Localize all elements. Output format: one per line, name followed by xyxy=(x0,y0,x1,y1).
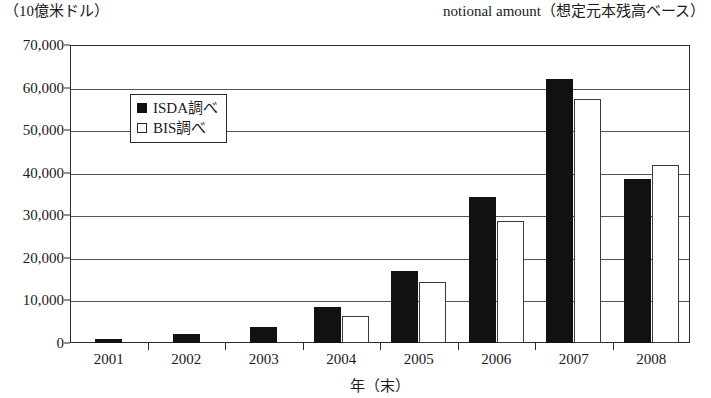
bar-isda-2002 xyxy=(173,334,200,343)
y-tick-label: 60,000 xyxy=(23,79,64,96)
y-tick-label: 10,000 xyxy=(23,292,64,309)
x-tick-mark xyxy=(380,343,381,350)
x-axis-title: 年（末） xyxy=(70,374,690,395)
legend-item-label: BIS調べ xyxy=(153,118,206,138)
bar-bis-2007 xyxy=(574,99,601,343)
bar-group xyxy=(458,45,536,343)
x-axis-ticks xyxy=(70,343,690,350)
legend-item-isda: ISDA調べ xyxy=(137,98,218,118)
x-tick-label: 2003 xyxy=(249,351,279,368)
y-tick-label: 40,000 xyxy=(23,164,64,181)
bar-isda-2003 xyxy=(250,327,277,343)
x-tick-label: 2004 xyxy=(326,351,356,368)
x-tick-mark xyxy=(535,343,536,350)
x-tick-mark xyxy=(458,343,459,350)
x-tick-mark xyxy=(225,343,226,350)
bar-group xyxy=(613,45,691,343)
y-tick-label: 70,000 xyxy=(23,37,64,54)
x-tick-label: 2007 xyxy=(559,351,589,368)
bar-isda-2004 xyxy=(314,307,341,343)
y-axis: 010,00020,00030,00040,00050,00060,00070,… xyxy=(0,45,64,343)
bar-isda-2006 xyxy=(469,197,496,343)
filled-square-icon xyxy=(137,103,147,113)
bar-group xyxy=(380,45,458,343)
y-axis-unit-label: （10億米ドル） xyxy=(4,2,109,20)
bar-bis-2006 xyxy=(497,221,524,343)
y-tick-label: 50,000 xyxy=(23,122,64,139)
x-tick-label: 2002 xyxy=(171,351,201,368)
chart-legend: ISDA調べ BIS調べ xyxy=(130,94,227,143)
bar-group xyxy=(535,45,613,343)
x-tick-label: 2006 xyxy=(481,351,511,368)
bar-group xyxy=(70,45,148,343)
bar-bis-2008 xyxy=(652,165,679,343)
legend-item-bis: BIS調べ xyxy=(137,118,218,138)
x-tick-label: 2001 xyxy=(94,351,124,368)
x-tick-label: 2008 xyxy=(636,351,666,368)
x-tick-mark xyxy=(613,343,614,350)
x-axis: 20012002200320042005200620072008 xyxy=(70,351,690,373)
bars-layer xyxy=(70,45,690,343)
bar-isda-2007 xyxy=(546,79,573,343)
bar-group xyxy=(225,45,303,343)
bar-group xyxy=(303,45,381,343)
bar-bis-2005 xyxy=(419,282,446,343)
y-tick-label: 0 xyxy=(57,335,65,352)
y-tick-label: 20,000 xyxy=(23,249,64,266)
x-tick-mark xyxy=(303,343,304,350)
bar-group xyxy=(148,45,226,343)
bar-isda-2008 xyxy=(624,179,651,343)
legend-item-label: ISDA調べ xyxy=(153,98,218,118)
bar-isda-2005 xyxy=(391,271,418,343)
y-tick-label: 30,000 xyxy=(23,207,64,224)
x-tick-mark xyxy=(148,343,149,350)
hollow-square-icon xyxy=(137,123,147,133)
bar-bis-2004 xyxy=(342,316,369,343)
chart-title: notional amount（想定元本残高ベース） xyxy=(443,2,705,20)
x-tick-label: 2005 xyxy=(404,351,434,368)
